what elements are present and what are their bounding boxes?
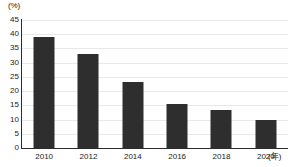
bar-slot bbox=[199, 20, 243, 148]
bar bbox=[122, 82, 143, 148]
y-axis-tick-label: 25 bbox=[10, 73, 19, 81]
y-axis-tick-label: 0 bbox=[15, 144, 19, 152]
bar bbox=[167, 104, 188, 148]
bar-slot bbox=[22, 20, 66, 148]
bar-slot bbox=[66, 20, 110, 148]
y-axis-unit-label: (%) bbox=[8, 1, 20, 10]
y-axis-tick-label: 5 bbox=[15, 130, 19, 138]
x-axis-tick-label: 2014 bbox=[124, 152, 142, 161]
bar bbox=[255, 120, 276, 148]
x-axis-unit-label: (年) bbox=[268, 152, 281, 161]
y-axis-tick-label: 40 bbox=[10, 30, 19, 38]
y-axis-tick-label: 20 bbox=[10, 87, 19, 95]
bar-slot bbox=[244, 20, 288, 148]
y-axis-tick-label: 45 bbox=[10, 16, 19, 24]
bar-chart: (%) 051015202530354045 20102012201420162… bbox=[0, 0, 294, 167]
x-axis-tick-label: 2010 bbox=[35, 152, 53, 161]
gridline bbox=[22, 148, 288, 149]
y-axis-tick-label: 10 bbox=[10, 116, 19, 124]
x-axis-tick-label: 2018 bbox=[213, 152, 231, 161]
bar-series bbox=[22, 20, 288, 148]
bar-slot bbox=[111, 20, 155, 148]
x-axis-tick-label: 2012 bbox=[80, 152, 98, 161]
x-axis-tick-label: 2016 bbox=[168, 152, 186, 161]
bar bbox=[211, 110, 232, 148]
y-axis-tick-label: 30 bbox=[10, 59, 19, 67]
bar-slot bbox=[155, 20, 199, 148]
y-axis-tick-label: 35 bbox=[10, 44, 19, 52]
plot-area: 051015202530354045 bbox=[22, 20, 288, 148]
y-axis-tick-label: 15 bbox=[10, 101, 19, 109]
bar bbox=[78, 54, 99, 148]
bar bbox=[34, 37, 55, 148]
